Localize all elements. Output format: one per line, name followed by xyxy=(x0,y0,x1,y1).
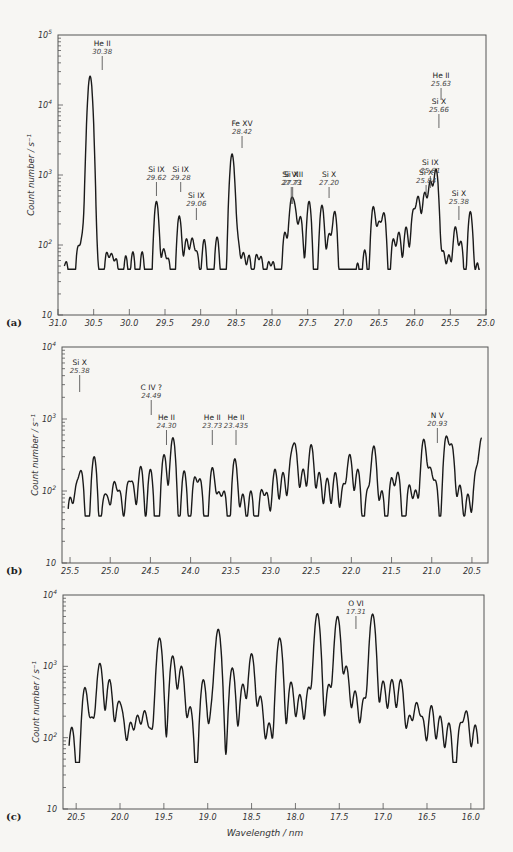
spectrum-line xyxy=(69,614,478,763)
spectra-figure: 1010210310410531.030.530.029.529.028.528… xyxy=(0,0,513,852)
x-tick-label: 17.0 xyxy=(374,812,392,822)
wavelength-label: 25.38 xyxy=(449,198,470,206)
panel-label: (c) xyxy=(6,811,22,822)
y-tick-label: 104 xyxy=(38,98,52,110)
y-tick-label: 104 xyxy=(42,340,56,352)
x-tick-label: 18.0 xyxy=(286,812,304,822)
y-tick-label: 105 xyxy=(38,28,52,40)
line-annotation: He II23.435 xyxy=(224,413,249,445)
x-tick-label: 22.5 xyxy=(302,566,320,576)
x-tick-label: 25.0 xyxy=(101,566,119,576)
y-tick-label: 102 xyxy=(38,238,52,250)
wavelength-label: 25.81 xyxy=(420,167,440,175)
x-tick-label: 21.0 xyxy=(423,566,441,576)
line-annotation: Si X25.38 xyxy=(70,358,91,392)
x-tick-label: 26.5 xyxy=(370,318,388,328)
y-tick-label: 103 xyxy=(43,659,57,671)
x-tick-label: 29.0 xyxy=(192,318,210,328)
x-tick-label: 23.5 xyxy=(222,566,240,576)
spectrum-line xyxy=(68,436,482,516)
line-annotation: He II30.38 xyxy=(92,39,113,70)
x-tick-label: 27.0 xyxy=(334,318,352,328)
y-axis-title: Count number / s⁻¹ xyxy=(31,661,41,743)
wavelength-label: 28.42 xyxy=(232,128,253,136)
x-tick-label: 21.5 xyxy=(383,566,401,576)
panel-c-chart: 1010210310420.520.019.519.018.518.017.51… xyxy=(6,588,484,822)
x-tick-label: 19.0 xyxy=(199,812,217,822)
wavelength-label: 24.30 xyxy=(156,422,177,430)
panel-b-chart: 1010210310425.525.024.524.023.523.022.52… xyxy=(6,340,488,576)
ion-label: He II xyxy=(158,413,175,422)
x-tick-label: 19.5 xyxy=(155,812,173,822)
y-axis-title: Count number / s⁻¹ xyxy=(30,414,40,496)
ion-label: Si IX xyxy=(148,165,165,174)
wavelength-label: 27.20 xyxy=(319,179,340,187)
x-tick-label: 16.5 xyxy=(418,812,436,822)
wavelength-label: 25.38 xyxy=(70,367,91,375)
x-tick-label: 27.5 xyxy=(299,318,317,328)
wavelength-label: 29.06 xyxy=(186,200,207,208)
wavelength-label: 27.71 xyxy=(283,179,303,187)
x-tick-label: 28.5 xyxy=(227,318,245,328)
ion-label: Si X xyxy=(452,189,466,198)
x-tick-label: 18.5 xyxy=(243,812,261,822)
y-tick-label: 10 xyxy=(46,559,56,568)
x-tick-label: 24.5 xyxy=(141,566,159,576)
y-axis-title: Count number / s⁻¹ xyxy=(26,134,36,216)
plot-frame xyxy=(63,595,484,809)
x-tick-label: 25.0 xyxy=(477,318,495,328)
panel-a-chart: 1010210310410531.030.530.029.529.028.528… xyxy=(6,28,495,328)
line-annotation: Si X25.38 xyxy=(449,189,470,220)
ion-label: Si IX xyxy=(422,158,439,167)
line-annotation: Si X27.20 xyxy=(319,170,340,198)
line-annotation: He II25.63 xyxy=(431,71,451,100)
line-annotation: N V20.93 xyxy=(427,411,447,443)
wavelength-label: 29.28 xyxy=(171,174,192,182)
y-tick-label: 104 xyxy=(43,588,57,600)
x-tick-label: 17.5 xyxy=(330,812,348,822)
x-tick-label: 30.5 xyxy=(85,318,103,328)
line-annotation: He II23.73 xyxy=(202,413,222,445)
line-annotation: Si VIII27.71 xyxy=(282,170,303,204)
x-tick-label: 29.5 xyxy=(156,318,174,328)
wavelength-label: 29.62 xyxy=(146,174,167,182)
line-annotation: Si X25.66 xyxy=(429,97,450,128)
ion-label: Si IX xyxy=(188,191,205,200)
y-tick-label: 103 xyxy=(38,168,52,180)
ion-label: N V xyxy=(431,411,445,420)
x-tick-label: 28.0 xyxy=(263,318,281,328)
x-tick-label: 31.0 xyxy=(49,318,67,328)
x-tick-label: 30.0 xyxy=(120,318,138,328)
y-tick-label: 102 xyxy=(42,484,56,496)
ion-label: He II xyxy=(433,71,450,80)
wavelength-label: 23.435 xyxy=(224,422,249,430)
wavelength-label: 20.93 xyxy=(427,420,447,428)
y-tick-label: 102 xyxy=(43,731,57,743)
x-axis-title: Wavelength / nm xyxy=(227,828,304,838)
panel-label: (b) xyxy=(6,565,22,576)
y-tick-label: 10 xyxy=(47,805,57,814)
x-tick-label: 24.0 xyxy=(182,566,200,576)
ion-label: Si VIII xyxy=(282,170,303,179)
x-tick-label: 16.0 xyxy=(462,812,480,822)
y-tick-label: 103 xyxy=(42,412,56,424)
spectrum-line xyxy=(64,76,480,269)
wavelength-label: 25.66 xyxy=(429,106,450,114)
ion-label: Si X xyxy=(432,97,446,106)
wavelength-label: 25.84 xyxy=(416,177,436,185)
wavelength-label: 17.31 xyxy=(346,608,366,616)
x-tick-label: 20.5 xyxy=(67,812,85,822)
line-annotation: O VI17.31 xyxy=(346,599,366,629)
wavelength-label: 24.49 xyxy=(141,392,162,400)
wavelength-label: 30.38 xyxy=(92,48,113,56)
ion-label: O VI xyxy=(348,599,364,608)
ion-label: Fe XV xyxy=(231,119,253,128)
line-annotation: C IV ?24.49 xyxy=(141,383,162,415)
line-annotation: Si IX29.28 xyxy=(171,165,192,192)
ion-label: He II xyxy=(227,413,244,422)
wavelength-label: 23.73 xyxy=(202,422,222,430)
panel-label: (a) xyxy=(6,317,22,328)
x-tick-label: 25.5 xyxy=(441,318,459,328)
x-tick-label: 20.5 xyxy=(463,566,481,576)
ion-label: C IV ? xyxy=(141,383,162,392)
